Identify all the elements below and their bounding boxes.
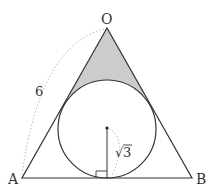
vertex-label-A: A bbox=[7, 171, 19, 187]
side-length-label: 6 bbox=[35, 84, 43, 99]
center-point bbox=[105, 126, 108, 129]
geometry-diagram: O A B 6 √ 3 bbox=[0, 0, 217, 196]
vertex-label-O: O bbox=[101, 11, 112, 27]
vertex-label-B: B bbox=[196, 171, 206, 187]
radius-value: 3 bbox=[123, 145, 131, 160]
radius-label: √ 3 bbox=[115, 145, 132, 160]
